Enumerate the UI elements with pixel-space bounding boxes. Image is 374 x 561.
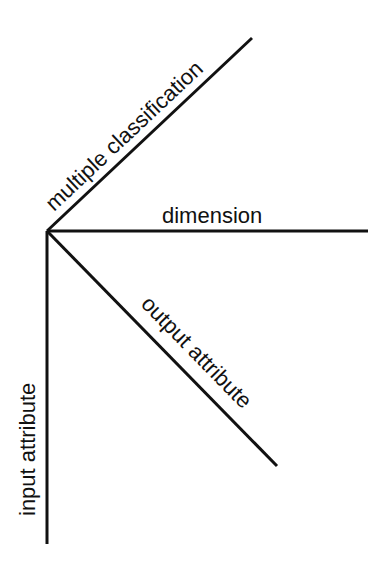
label-output-attribute: output attribute — [136, 291, 257, 413]
label-multiple-classification: multiple classification — [40, 56, 208, 216]
label-dimension: dimension — [162, 203, 262, 228]
axes-diagram: multiple classification dimension output… — [0, 0, 374, 561]
label-input-attribute: input attribute — [15, 383, 40, 516]
axis-line-output-attribute — [47, 231, 277, 466]
